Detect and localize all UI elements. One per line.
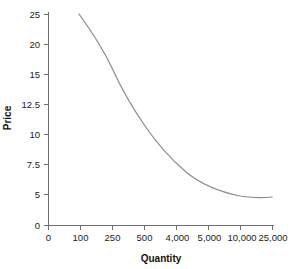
y-tick-label: 12.5 — [22, 99, 41, 110]
y-tick-label: 15 — [29, 69, 40, 80]
x-tick-label: 10,000 — [227, 232, 256, 243]
x-tick-label: 5,000 — [198, 232, 222, 243]
x-tick-label: 4,000 — [166, 232, 190, 243]
y-tick-label: 7.5 — [27, 159, 40, 170]
price-quantity-chart: 25 20 15 12.5 10 7.5 5 0 0 100 250 500 4 — [0, 0, 295, 269]
y-tick-label: 0 — [35, 220, 40, 231]
x-tick-label: 500 — [137, 232, 153, 243]
x-axis-tick-labels: 0 100 250 500 4,000 5,000 10,000 25,000 — [46, 232, 288, 243]
y-tick-label: 20 — [29, 39, 40, 50]
x-tick-label: 0 — [46, 232, 51, 243]
x-tick-label: 100 — [73, 232, 89, 243]
chart-container: 25 20 15 12.5 10 7.5 5 0 0 100 250 500 4 — [0, 0, 295, 269]
y-tick-label: 10 — [29, 129, 40, 140]
x-tick-label: 25,000 — [258, 232, 287, 243]
y-tick-label: 5 — [35, 189, 40, 200]
x-axis-title: Quantity — [141, 253, 182, 264]
y-tick-label: 25 — [29, 9, 40, 20]
x-tick-label: 250 — [105, 232, 121, 243]
y-axis-title: Price — [2, 105, 13, 130]
